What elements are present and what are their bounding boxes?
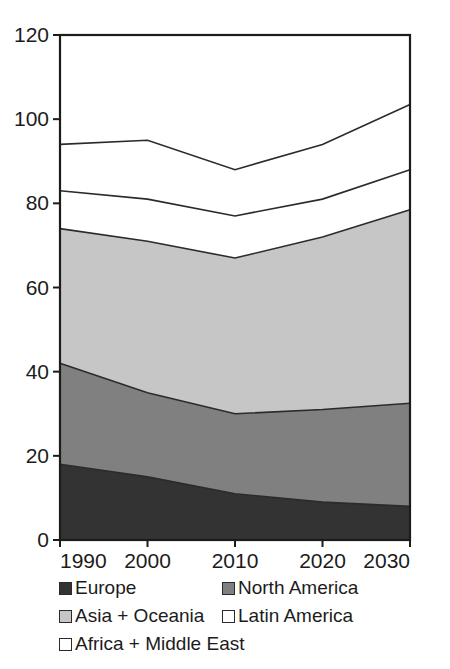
y-tick-label: 100 (14, 107, 49, 130)
legend-swatch-latin-america (222, 610, 235, 623)
x-tick-label: 2020 (299, 549, 346, 572)
x-tick-label: 2030 (363, 549, 410, 572)
legend-swatch-asia-oceania (59, 610, 72, 623)
legend-swatch-north-america (222, 582, 235, 595)
x-tick-label: 1990 (60, 549, 107, 572)
y-tick-label: 120 (14, 23, 49, 46)
legend-label-europe: Europe (75, 578, 136, 598)
chart-svg: 120100806040200 19902000201020202030 (0, 0, 450, 580)
legend-item-north-america: North America (205, 578, 450, 598)
x-axis-tick-labels: 19902000201020202030 (60, 549, 410, 572)
legend-row: Europe North America (0, 578, 450, 606)
x-tick-label: 2000 (124, 549, 171, 572)
y-tick-label: 0 (37, 528, 49, 551)
legend-item-africa-middle-east: Africa + Middle East (0, 634, 205, 654)
legend-label-africa-middle-east: Africa + Middle East (75, 634, 245, 654)
stacked-area-chart: 120100806040200 19902000201020202030 Eur… (0, 0, 450, 669)
legend-row: Africa + Middle East (0, 634, 450, 662)
y-tick-label: 40 (26, 360, 49, 383)
y-axis-tick-labels: 120100806040200 (14, 23, 49, 551)
legend-label-latin-america: Latin America (238, 606, 353, 626)
plot-area-container: 120100806040200 19902000201020202030 (0, 0, 450, 580)
legend-item-asia-oceania: Asia + Oceania (0, 606, 205, 626)
legend-swatch-africa-middle-east (59, 638, 72, 651)
y-tick-label: 60 (26, 276, 49, 299)
x-tick-label: 2010 (212, 549, 259, 572)
y-tick-label: 20 (26, 444, 49, 467)
legend-item-europe: Europe (0, 578, 205, 598)
legend-label-north-america: North America (238, 578, 358, 598)
legend-row: Asia + Oceania Latin America (0, 606, 450, 634)
y-tick-label: 80 (26, 191, 49, 214)
legend-label-asia-oceania: Asia + Oceania (75, 606, 204, 626)
chart-legend: Europe North America Asia + Oceania Lati… (0, 578, 450, 669)
legend-swatch-europe (59, 582, 72, 595)
legend-item-latin-america: Latin America (205, 606, 450, 626)
